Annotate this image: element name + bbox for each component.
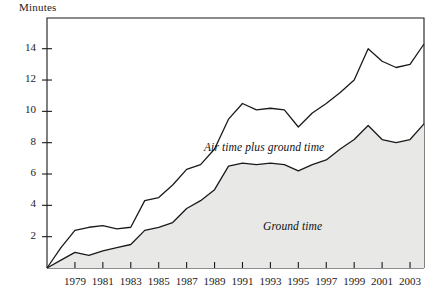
y-tick-label-6: 6 bbox=[14, 166, 36, 178]
series-label-ground-time: Ground time bbox=[263, 220, 322, 232]
x-tick-label-2003: 2003 bbox=[393, 275, 427, 287]
series-label-air-plus-ground: Air time plus ground time bbox=[204, 141, 324, 153]
y-tick-label-4: 4 bbox=[14, 197, 36, 209]
y-tick-label-2: 2 bbox=[14, 229, 36, 241]
y-tick-label-10: 10 bbox=[14, 103, 36, 115]
y-tick-label-8: 8 bbox=[14, 135, 36, 147]
y-tick-label-12: 12 bbox=[14, 72, 36, 84]
chart-page: Minutes 2468101214 197919811983198519871… bbox=[0, 0, 447, 304]
series-group bbox=[47, 44, 424, 268]
y-tick-label-14: 14 bbox=[14, 41, 36, 53]
